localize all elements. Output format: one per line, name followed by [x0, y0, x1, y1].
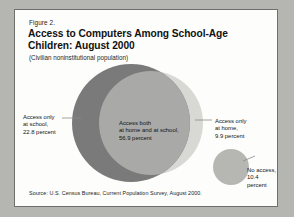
callout-home-only: Access only at home, 9.9 percent [215, 118, 246, 140]
no-access-circle [213, 149, 249, 185]
figure-number: Figure 2. [29, 19, 55, 26]
figure-source: Source: U.S. Census Bureau, Current Popu… [29, 190, 202, 196]
figure-panel: Figure 2. Access to Computers Among Scho… [14, 9, 278, 207]
figure-title: Access to Computers Among School-Age Chi… [28, 28, 258, 51]
figure-screenshot: Figure 2. Access to Computers Among Scho… [0, 0, 294, 217]
callout-school-only: Access only at school, 22.8 percent [23, 114, 56, 136]
figure-title-line-2: Children: August 2000 [28, 40, 258, 52]
callout-no-access: No access, 10.4 percent [247, 167, 277, 189]
figure-title-line-1: Access to Computers Among School-Age [28, 28, 228, 39]
callout-both: Access both at home and at school, 56.9 … [119, 120, 179, 142]
